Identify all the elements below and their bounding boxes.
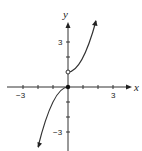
graph: x y −3 3 3 −3 (0, 0, 142, 151)
x-axis-arrow-icon (126, 85, 132, 90)
left-branch-curve (38, 87, 68, 147)
right-branch-arrow-icon (92, 20, 98, 26)
y-tick-label-neg3: −3 (53, 128, 63, 137)
y-axis-label: y (62, 8, 68, 20)
open-circle (66, 70, 70, 74)
closed-dot (66, 85, 70, 89)
x-axis-label: x (133, 81, 139, 93)
y-tick-label-3: 3 (58, 38, 63, 47)
y-axis-arrow-icon (66, 22, 71, 28)
x-tick-label-neg3: −3 (16, 91, 26, 100)
left-branch-arrow-icon (38, 142, 43, 148)
x-tick-label-3: 3 (111, 91, 116, 100)
right-branch-curve (68, 21, 96, 72)
